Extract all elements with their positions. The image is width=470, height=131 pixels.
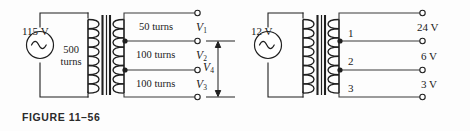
output-voltage-6v: 6 V (421, 51, 437, 63)
secondary-turns-label-2: 100 turns (136, 49, 175, 60)
secondary-tap-dots-left (122, 38, 127, 72)
primary-bottom-wire (40, 63, 88, 97)
figure-caption-left: FIGURE 11–56 (22, 111, 100, 123)
terminal-3v (420, 94, 425, 99)
primary-bottom-wire-right (268, 63, 303, 97)
primary-turns-label-line2: turns (55, 56, 87, 67)
terminal-label-v3: V3 (196, 78, 207, 92)
terminal-6v (420, 67, 425, 72)
tap-dot-1 (122, 38, 127, 43)
source-voltage-label-left: 115 V (22, 26, 49, 38)
primary-winding-right (303, 20, 314, 94)
figure-11-56: 115 V 500 turns 50 turns 100 turns 100 t… (0, 0, 235, 131)
secondary-winding-right (328, 20, 339, 94)
output-voltage-24v: 24 V (417, 22, 439, 34)
tap-dot-2 (122, 67, 127, 72)
measurement-label-v4: V4 (203, 61, 214, 75)
output-voltage-3v: 3 V (421, 79, 437, 91)
figures-canvas: 115 V 500 turns 50 turns 100 turns 100 t… (0, 0, 470, 131)
v4-arrow (215, 42, 220, 97)
terminal-top (195, 10, 200, 15)
secondary-winding-left (113, 20, 124, 94)
primary-top-wire-right (268, 13, 303, 27)
secondary-lead-top-right (339, 13, 421, 20)
secondary-turns-label-3: 100 turns (136, 78, 175, 89)
primary-winding-left (88, 20, 99, 94)
secondary-turns-label-1: 50 turns (139, 21, 173, 32)
transformer-core-left (103, 15, 111, 95)
tap-number-1: 1 (348, 28, 354, 40)
secondary-lead-top (124, 13, 196, 20)
tap-number-2: 2 (348, 56, 354, 68)
terminal-label-v1: V1 (196, 21, 207, 35)
terminal-v2 (195, 67, 200, 72)
transformer-core-right (318, 15, 326, 95)
tap-dot-2-right (337, 67, 342, 72)
terminal-v1 (195, 38, 200, 43)
terminal-v3 (195, 94, 200, 99)
primary-turns-label-line1: 500 (55, 44, 87, 55)
terminal-24v (420, 38, 425, 43)
tap-dot-1-right (337, 38, 342, 43)
secondary-tap-dots-right (337, 38, 342, 72)
source-voltage-label-right: 12 V (251, 26, 273, 38)
figure-11-57: 12 V 1 2 3 24 V 6 V 3 V FIGURE 11–57 (235, 0, 470, 131)
terminal-top-right (420, 10, 425, 15)
secondary-lead-bottom (124, 93, 196, 97)
tap-number-3: 3 (348, 83, 354, 95)
